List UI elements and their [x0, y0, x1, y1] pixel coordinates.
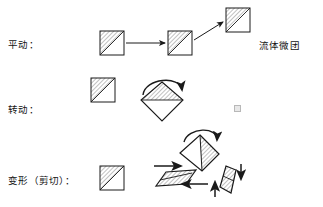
- row-translation-graphics: [100, 8, 250, 55]
- fluid-element-motion-diagram: 平动： 转动： 变形（剪切）： 流体微团: [0, 0, 323, 207]
- scan-artifact-speck: [234, 105, 241, 112]
- square-reference-deformation: [100, 166, 124, 190]
- row-label-translation: 平动：: [8, 40, 39, 50]
- row-rotation-graphics: [91, 78, 183, 121]
- square-reference-rotation: [91, 78, 115, 102]
- row-label-rotation: 转动：: [8, 105, 39, 115]
- row-deformation-graphics: [100, 130, 241, 197]
- square-end: [226, 8, 250, 32]
- diamond-tilted: [180, 135, 219, 171]
- square-middle: [168, 31, 192, 55]
- arrow-2: [194, 22, 223, 40]
- row-label-deformation: 变形（剪切）：: [8, 176, 75, 186]
- parallelogram-vertical-shear: [220, 166, 236, 193]
- caption-fluid-element: 流体微团: [259, 41, 300, 51]
- diamond-rotated: [141, 82, 183, 121]
- square-start: [100, 31, 124, 55]
